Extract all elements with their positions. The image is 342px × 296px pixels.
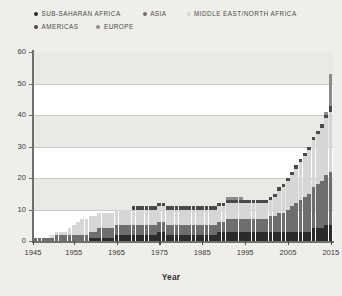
- bar-segment: [183, 225, 187, 234]
- bar[interactable]: [226, 52, 230, 241]
- bar[interactable]: [320, 52, 324, 241]
- bar[interactable]: [68, 52, 72, 241]
- bar[interactable]: [76, 52, 80, 241]
- bar[interactable]: [97, 52, 101, 241]
- bar-segment: [303, 156, 307, 197]
- bar-segment: [252, 203, 256, 219]
- bar[interactable]: [179, 52, 183, 241]
- bar[interactable]: [247, 52, 251, 241]
- bar[interactable]: [140, 52, 144, 241]
- bar[interactable]: [307, 52, 311, 241]
- bar[interactable]: [264, 52, 268, 241]
- bar[interactable]: [153, 52, 157, 241]
- bar[interactable]: [187, 52, 191, 241]
- bar[interactable]: [63, 52, 67, 241]
- bar-segment: [145, 210, 149, 226]
- bar[interactable]: [50, 52, 54, 241]
- bar[interactable]: [252, 52, 256, 241]
- bar-segment: [256, 219, 260, 232]
- bar-segment: [209, 210, 213, 226]
- bar-segment: [282, 187, 286, 212]
- bar[interactable]: [166, 52, 170, 241]
- bar[interactable]: [222, 52, 226, 241]
- bar[interactable]: [217, 52, 221, 241]
- bar[interactable]: [256, 52, 260, 241]
- bar[interactable]: [132, 52, 136, 241]
- bar[interactable]: [85, 52, 89, 241]
- bar[interactable]: [55, 52, 59, 241]
- legend-item-europe[interactable]: EUROPE: [96, 23, 133, 30]
- bar[interactable]: [192, 52, 196, 241]
- legend-swatch-icon: [34, 25, 38, 29]
- bar-segment: [179, 225, 183, 234]
- bar[interactable]: [260, 52, 264, 241]
- bar-segment: [269, 216, 273, 232]
- bar[interactable]: [205, 52, 209, 241]
- bar-segment: [157, 232, 161, 241]
- bar[interactable]: [59, 52, 63, 241]
- bar[interactable]: [294, 52, 298, 241]
- bar-segment: [217, 206, 221, 222]
- bar-segment: [329, 74, 333, 106]
- bar[interactable]: [106, 52, 110, 241]
- bar-segment: [277, 191, 281, 213]
- bar[interactable]: [162, 52, 166, 241]
- bar-segment: [119, 225, 123, 234]
- bar[interactable]: [33, 52, 37, 241]
- bar[interactable]: [115, 52, 119, 241]
- bar[interactable]: [170, 52, 174, 241]
- bar[interactable]: [93, 52, 97, 241]
- bar-segment: [320, 181, 324, 228]
- legend-item-sub-saharan-africa[interactable]: SUB-SAHARAN AFRICA: [34, 10, 121, 17]
- bar[interactable]: [196, 52, 200, 241]
- legend-item-middle-east-north-africa[interactable]: MIDDLE EAST/NORTH AFRICA: [187, 10, 297, 17]
- bar[interactable]: [282, 52, 286, 241]
- bar[interactable]: [239, 52, 243, 241]
- legend-item-label: EUROPE: [104, 23, 134, 30]
- bar[interactable]: [72, 52, 76, 241]
- bar-segment: [89, 216, 93, 232]
- bar[interactable]: [80, 52, 84, 241]
- legend-item-americas[interactable]: AMERICAS: [34, 23, 78, 30]
- bar[interactable]: [119, 52, 123, 241]
- legend-item-asia[interactable]: ASIA: [143, 10, 167, 17]
- bar[interactable]: [200, 52, 204, 241]
- bar[interactable]: [234, 52, 238, 241]
- bar-segment: [234, 219, 238, 232]
- bar-segment: [316, 134, 320, 184]
- bar[interactable]: [213, 52, 217, 241]
- bar[interactable]: [299, 52, 303, 241]
- bar[interactable]: [277, 52, 281, 241]
- bar[interactable]: [123, 52, 127, 241]
- bar[interactable]: [89, 52, 93, 241]
- bar[interactable]: [286, 52, 290, 241]
- bar-segment: [247, 219, 251, 232]
- bar[interactable]: [316, 52, 320, 241]
- bar[interactable]: [324, 52, 328, 241]
- bar[interactable]: [42, 52, 46, 241]
- bar[interactable]: [209, 52, 213, 241]
- bar[interactable]: [127, 52, 131, 241]
- bar[interactable]: [149, 52, 153, 241]
- y-axis-tick-label: 10: [4, 206, 26, 214]
- bar[interactable]: [303, 52, 307, 241]
- bar[interactable]: [269, 52, 273, 241]
- bar[interactable]: [157, 52, 161, 241]
- bar-segment: [282, 232, 286, 241]
- bar[interactable]: [175, 52, 179, 241]
- bar[interactable]: [273, 52, 277, 241]
- x-axis-tick-label: 1965: [100, 248, 134, 257]
- bar[interactable]: [183, 52, 187, 241]
- bar[interactable]: [312, 52, 316, 241]
- bar[interactable]: [136, 52, 140, 241]
- bar[interactable]: [38, 52, 42, 241]
- bar[interactable]: [230, 52, 234, 241]
- bar[interactable]: [329, 52, 333, 241]
- bar[interactable]: [46, 52, 50, 241]
- bar-segment: [200, 210, 204, 226]
- bar[interactable]: [290, 52, 294, 241]
- bar[interactable]: [145, 52, 149, 241]
- bar[interactable]: [102, 52, 106, 241]
- bar[interactable]: [243, 52, 247, 241]
- bar[interactable]: [110, 52, 114, 241]
